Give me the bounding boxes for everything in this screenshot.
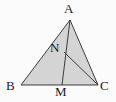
vertex-label-m: M xyxy=(55,85,67,98)
triangle-abc-shape xyxy=(21,20,98,85)
vertex-label-a: A xyxy=(64,2,73,15)
vertex-label-c: C xyxy=(100,79,109,92)
vertex-label-n: N xyxy=(50,41,59,54)
vertex-label-b: B xyxy=(6,79,15,92)
geometry-figure: A B C N M xyxy=(0,0,116,102)
